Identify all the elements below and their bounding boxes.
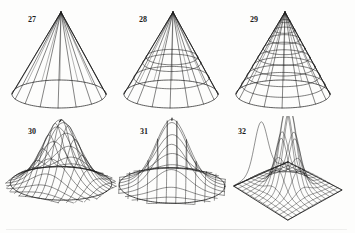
cone-meridian <box>173 12 205 84</box>
figure-sheet: 27 28 29 30 31 32 <box>0 0 355 233</box>
cone-meridian <box>15 12 61 99</box>
surface-mesh-line-u <box>19 149 64 196</box>
cone-meridian <box>138 12 173 84</box>
surface-mesh-line-v <box>39 164 114 181</box>
cone-meridian <box>61 12 102 100</box>
figure-panel-28: 28 <box>114 2 232 118</box>
cone-meridian <box>26 12 61 84</box>
cone-meridian <box>152 12 173 107</box>
figure-panel-27: 27 <box>2 2 120 118</box>
panel-drawing-27 <box>2 2 120 118</box>
surface-mesh-line-v <box>263 116 317 203</box>
cone-meridian <box>127 12 173 99</box>
profile-curve <box>234 122 288 186</box>
surface-mesh-line-v <box>120 135 226 182</box>
panel-drawing-32 <box>226 116 344 232</box>
cone-meridian <box>61 12 92 104</box>
cone-meridian <box>285 12 316 104</box>
figure-panel-31: 31 <box>114 116 232 232</box>
cone-meridian <box>40 12 61 107</box>
cone-meridian <box>285 12 302 81</box>
panel-drawing-29 <box>226 2 344 118</box>
panel-drawing-28 <box>114 2 232 118</box>
panel-drawing-30 <box>2 116 120 232</box>
surface-mesh-line-u <box>259 116 313 205</box>
figure-panel-29: 29 <box>226 2 344 118</box>
cone-meridian <box>25 12 61 104</box>
surface-mesh-line-v <box>16 120 107 192</box>
cone-meridian <box>61 12 78 81</box>
surface-mesh-line-u <box>166 121 168 204</box>
surface-mesh-line-v <box>12 127 103 194</box>
cone-meridian <box>249 12 285 104</box>
cone-meridian <box>61 12 93 84</box>
surface-mesh-line-u <box>267 132 321 201</box>
cone-meridian <box>137 12 173 104</box>
cone-meridian <box>239 12 285 99</box>
figure-panel-30: 30 <box>2 116 120 232</box>
figure-panel-32: 32 <box>226 116 344 232</box>
surface-mesh-line-u <box>156 139 158 203</box>
surface-mesh-line-v <box>19 196 59 203</box>
bottom-rule <box>6 229 347 230</box>
surface-mesh-line-u <box>176 121 178 204</box>
surface-mesh-line-u <box>280 165 334 194</box>
surface-mesh-line-v <box>276 183 330 212</box>
cone-meridian <box>173 12 204 104</box>
surface-mesh-line-v <box>10 192 73 203</box>
surface-mesh-line-u <box>147 160 149 203</box>
cone-meridian <box>264 12 285 107</box>
panel-drawing-31 <box>114 116 232 232</box>
